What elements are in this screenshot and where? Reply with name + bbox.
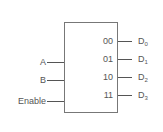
output-code-2: 10 (103, 72, 113, 82)
output-label-0: D0 (138, 36, 148, 49)
output-code-3: 11 (104, 90, 113, 100)
output-label-2: D2 (138, 72, 148, 85)
output-line-1 (118, 59, 132, 60)
output-line-2 (118, 77, 132, 78)
input-line-a (47, 62, 64, 63)
input-line-enable (47, 101, 64, 102)
output-line-0 (118, 41, 132, 42)
output-code-1: 01 (103, 54, 113, 64)
input-line-b (47, 80, 64, 81)
output-code-0: 00 (103, 36, 113, 46)
output-label-3: D3 (138, 90, 148, 103)
input-label-enable: Enable (18, 96, 46, 106)
output-label-1: D1 (138, 54, 148, 67)
input-label-b: B (40, 75, 46, 85)
output-line-3 (118, 95, 132, 96)
input-label-a: A (40, 57, 46, 67)
